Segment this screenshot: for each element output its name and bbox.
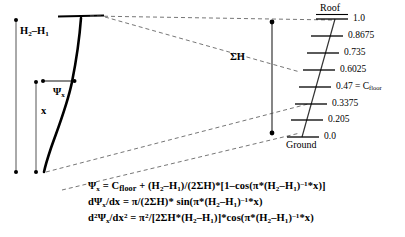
scale-value-4: 0.47 = Cfloor — [336, 82, 382, 92]
scale-value-2: 0.735 — [344, 48, 365, 58]
x-dimension-arrow-top — [34, 80, 38, 84]
scale-value-0: 1.0 — [353, 14, 365, 24]
x-dimension-arrow-bottom — [34, 170, 38, 174]
scale-roof-label: Roof — [320, 3, 340, 13]
equation-second-derivative: d2Ψx/dx2 = π2/[2ΣH*(H2–H1)]*cos(π*(H2–H1… — [88, 212, 314, 225]
equation-psi: Ψx = Cfloor + (H2–H1)/(2ΣH)*[1–cos(π*(H2… — [88, 180, 326, 193]
perspective-line-upper — [105, 17, 300, 72]
sum-h-arrow-top — [270, 20, 275, 25]
height-dimension-arrow-top — [14, 18, 18, 22]
sum-h-label: ΣH — [230, 52, 245, 63]
figure-container: H2–H1 x Ψx ΣH Roof Ground 1.0 0.8675 0.7… — [0, 0, 405, 237]
x-label: x — [41, 106, 46, 117]
scale-value-5: 0.3375 — [332, 99, 358, 109]
scale-value-3: 0.6025 — [340, 65, 366, 75]
sum-h-arrow-bottom — [270, 131, 275, 136]
height-difference-label: H2–H1 — [20, 26, 49, 38]
psi-dimension-arrow-left — [41, 79, 45, 83]
equation-first-derivative: dΨx/dx = π/(2ΣH)* sin(π*(H2–H1)–1*x) — [88, 196, 262, 209]
perspective-line-ground — [46, 104, 308, 172]
scale-value-7: 0.0 — [324, 132, 336, 142]
height-dimension-arrow-bottom — [14, 170, 18, 174]
scale-value-6: 0.205 — [328, 115, 349, 125]
scale-value-1: 0.8675 — [348, 31, 374, 41]
perspective-line-roof — [90, 16, 332, 20]
psi-x-label: Ψx — [53, 87, 65, 99]
scale-ground-label: Ground — [286, 140, 317, 150]
